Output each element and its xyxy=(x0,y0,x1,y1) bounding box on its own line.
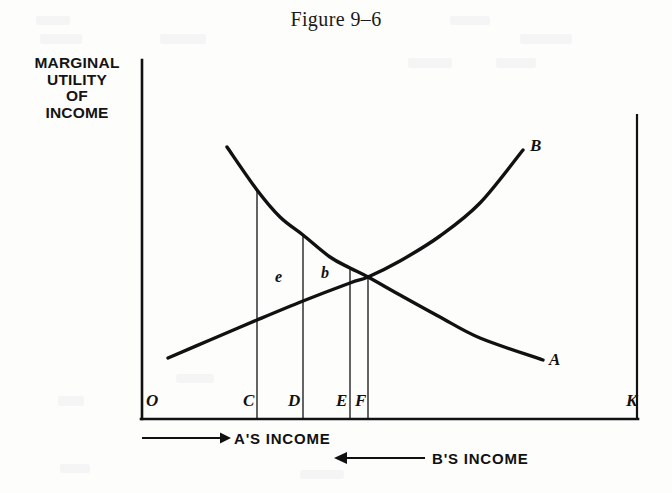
axis-label-f: F xyxy=(355,391,366,411)
axis-label-d: D xyxy=(288,391,300,411)
area-label-b: b xyxy=(321,264,329,282)
a-income-arrow xyxy=(142,433,231,444)
b-income-label: B'S INCOME xyxy=(432,450,529,467)
curve-label-a: A xyxy=(549,350,560,370)
figure-canvas: Figure 9–6 MARGINAL UTILITY OF INCOME O … xyxy=(0,0,672,493)
plot-drawing xyxy=(0,0,672,493)
axis-label-e: E xyxy=(336,391,347,411)
drop-lines-group xyxy=(257,190,368,419)
axis-label-k: K xyxy=(626,391,637,411)
curve-a-path xyxy=(227,147,543,360)
a-income-label: A'S INCOME xyxy=(234,430,331,447)
curve-b-path xyxy=(168,150,523,358)
area-label-e: e xyxy=(275,268,282,286)
axis-label-o: O xyxy=(146,391,158,411)
curve-label-b: B xyxy=(530,136,541,156)
b-income-arrow xyxy=(334,452,425,464)
axis-label-c: C xyxy=(243,391,254,411)
